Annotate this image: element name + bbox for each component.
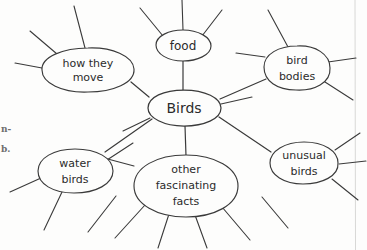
node-unusual-birds-line-1: unusual bbox=[282, 149, 325, 162]
node-bird-bodies-line-2: bodies bbox=[279, 70, 316, 83]
spoke-unusual-birds-3 bbox=[332, 179, 358, 200]
node-bird-bodies-line-1: bird bbox=[286, 54, 307, 67]
node-food[interactable]: food bbox=[156, 30, 211, 61]
spoke-facts-4 bbox=[222, 207, 250, 240]
node-other-facts-line-1: other bbox=[171, 163, 201, 176]
node-other-facts-line-2: fascinating bbox=[156, 179, 216, 192]
spoke-water-birds-3 bbox=[107, 143, 133, 160]
spoke-how-they-move-1 bbox=[30, 31, 57, 54]
spoke-unusual-birds-2 bbox=[339, 161, 366, 164]
spoke-facts-3 bbox=[195, 215, 207, 248]
spoke-how-they-move-3 bbox=[15, 63, 42, 68]
spoke-food-1 bbox=[140, 8, 163, 36]
spoke-unusual-birds-1 bbox=[335, 133, 360, 150]
spoke-facts-2 bbox=[158, 214, 169, 248]
spoke-center-extra-3 bbox=[88, 196, 116, 232]
spoke-center-extra-1 bbox=[123, 118, 150, 131]
node-unusual-birds-line-2: birds bbox=[290, 165, 317, 178]
spoke-bird-bodies-2 bbox=[328, 58, 356, 62]
margin-text-line-2: b. bbox=[1, 144, 10, 154]
node-birds-label: Birds bbox=[166, 100, 201, 116]
node-water-birds-line-2: birds bbox=[61, 173, 88, 186]
page-border-right bbox=[355, 0, 356, 250]
spoke-bird-bodies-3 bbox=[325, 82, 353, 100]
connector-center-bird-bodies bbox=[220, 79, 266, 99]
spoke-bird-bodies-1 bbox=[268, 10, 288, 47]
spoke-how-they-move-2 bbox=[74, 6, 85, 48]
connector-center-water-birds bbox=[105, 119, 152, 152]
spoke-facts-1 bbox=[115, 205, 145, 238]
node-birds-center[interactable]: Birds bbox=[148, 90, 221, 126]
node-how-they-move-line-2: move bbox=[73, 71, 104, 84]
node-bird-bodies-outline bbox=[264, 46, 330, 90]
node-how-they-move-line-1: how they bbox=[63, 57, 114, 70]
node-how-they-move[interactable]: how they move bbox=[42, 48, 134, 92]
node-other-facts-line-3: facts bbox=[173, 195, 200, 208]
node-water-birds-outline bbox=[38, 149, 113, 193]
worksheet-page: how they move food Birds bird bodies unu… bbox=[0, 0, 367, 250]
spoke-bird-bodies-4 bbox=[236, 53, 265, 57]
spoke-water-birds-2 bbox=[44, 192, 62, 230]
spoke-food-3 bbox=[202, 10, 222, 36]
connector-center-how-they-move bbox=[131, 82, 149, 97]
mind-map-canvas: how they move food Birds bird bodies unu… bbox=[0, 0, 367, 250]
margin-text-line-1: n- bbox=[1, 124, 12, 134]
node-unusual-birds[interactable]: unusual birds bbox=[270, 142, 338, 184]
spoke-center-extra-4 bbox=[262, 197, 288, 228]
connector-center-unusual-birds bbox=[219, 117, 271, 152]
spoke-water-birds-1 bbox=[10, 178, 41, 192]
node-water-birds[interactable]: water birds bbox=[38, 149, 113, 193]
connector-center-other-facts bbox=[185, 126, 186, 156]
spoke-center-extra-2 bbox=[221, 97, 252, 104]
node-food-label: food bbox=[170, 39, 197, 53]
spoke-food-2 bbox=[182, 0, 183, 30]
node-bird-bodies[interactable]: bird bodies bbox=[264, 46, 330, 90]
node-other-fascinating-facts[interactable]: other fascinating facts bbox=[134, 155, 238, 217]
node-water-birds-line-1: water bbox=[59, 157, 91, 170]
